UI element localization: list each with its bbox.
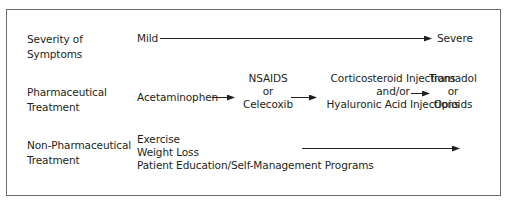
arrows-layer [0,0,510,207]
